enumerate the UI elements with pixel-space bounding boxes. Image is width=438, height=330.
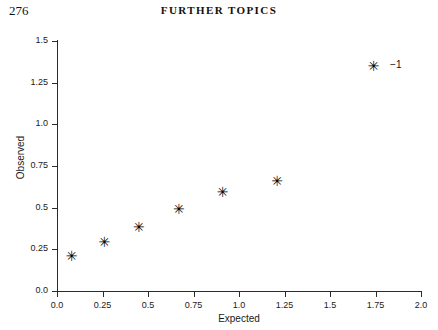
x-axis-tick-label: 1.0 [219, 300, 259, 310]
x-axis-tick [239, 292, 240, 297]
y-axis-tick-label: 1.25 [14, 77, 48, 87]
x-axis-tick [285, 292, 286, 297]
x-axis-tick [194, 292, 195, 297]
page-header: 276 FURTHER TOPICS [0, 0, 438, 24]
x-axis-tick-label: 2.0 [401, 300, 438, 310]
x-axis-tick [148, 292, 149, 297]
y-axis-tick [52, 41, 57, 42]
y-axis-line [57, 40, 58, 292]
x-axis-tick-label: 0.75 [174, 300, 214, 310]
data-point-marker: ✳ [65, 250, 78, 263]
x-axis-tick-label: 0.5 [128, 300, 168, 310]
x-axis-tick-label: 1.75 [356, 300, 396, 310]
y-axis-tick-label: 0.5 [14, 202, 48, 212]
y-axis-tick [52, 124, 57, 125]
x-axis-tick-label: 1.25 [265, 300, 305, 310]
data-point-marker: ✳ [367, 60, 380, 73]
y-axis-tick-label: 1.5 [14, 35, 48, 45]
data-point-marker: ✳ [132, 221, 145, 234]
data-point-marker: ✳ [98, 236, 111, 249]
x-axis-tick-label: 1.5 [310, 300, 350, 310]
y-axis-tick [52, 83, 57, 84]
y-axis-tick [52, 166, 57, 167]
point-annotation: −1 [390, 59, 401, 70]
scatter-plot-figure: 0.00.250.50.751.01.251.5 0.00.250.50.751… [0, 24, 438, 330]
x-axis-tick-label: 0.0 [37, 300, 77, 310]
x-axis-title: Expected [57, 313, 421, 324]
x-axis-tick [421, 292, 422, 297]
y-axis-tick [52, 249, 57, 250]
y-axis-tick-label: 0.0 [14, 285, 48, 295]
y-axis-tick-label: 0.25 [14, 243, 48, 253]
y-axis-tick [52, 208, 57, 209]
y-axis-title: Observed [15, 113, 26, 203]
x-axis-tick [103, 292, 104, 297]
x-axis-tick [376, 292, 377, 297]
x-axis-tick [330, 292, 331, 297]
x-axis-tick-label: 0.25 [83, 300, 123, 310]
data-point-marker: ✳ [271, 175, 284, 188]
data-point-marker: ✳ [172, 203, 185, 216]
data-point-marker: ✳ [216, 186, 229, 199]
running-head: FURTHER TOPICS [0, 4, 438, 16]
x-axis-tick [57, 292, 58, 297]
